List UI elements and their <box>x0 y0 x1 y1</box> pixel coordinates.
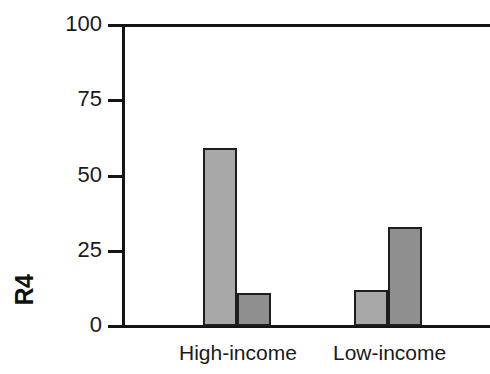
bar-chart: R4 1007550250 High-incomeLow-income <box>0 0 490 374</box>
x-axis-category-label: High-income <box>179 340 297 366</box>
bars-layer <box>0 0 490 326</box>
bar-high-income-series-1 <box>203 148 237 326</box>
bar-low-income-series-2 <box>388 227 422 326</box>
bar-low-income-series-1 <box>354 290 388 326</box>
x-axis-category-label: Low-income <box>333 340 446 366</box>
bar-high-income-series-2 <box>237 293 271 326</box>
